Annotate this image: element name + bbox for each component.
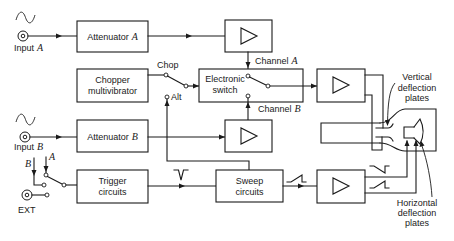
- channel-a-letter: A: [291, 55, 299, 66]
- arrow-right-icon: [298, 184, 304, 189]
- sweep-label-line-2: circuits: [235, 187, 264, 197]
- attenuator-a-channel-letter: A: [131, 31, 139, 42]
- arrow-down-icon: [32, 170, 37, 176]
- arrow-right-icon: [193, 84, 199, 89]
- arrow-down-icon: [246, 62, 251, 68]
- electronic-switch-pivot-icon: [266, 84, 270, 88]
- trigger-pulse-icon: [174, 170, 188, 180]
- channel-a-label: ChannelA: [255, 55, 299, 66]
- vertical-amplifier: [317, 69, 365, 102]
- attenuator-a-label-text: Attenuator: [87, 32, 129, 42]
- horizontal-plates-icon: [404, 127, 414, 138]
- crt-tube: [321, 109, 436, 151]
- trigger-source-pivot-icon: [62, 183, 66, 187]
- input-a-label-text: Input: [14, 43, 35, 53]
- vertical-deflection-plates-label: Vertical deflection plates: [398, 72, 437, 103]
- channel-b-contact-icon: [246, 94, 250, 98]
- input-a-label: InputA: [14, 42, 44, 53]
- attenuator-a-label: AttenuatorA: [87, 31, 139, 42]
- input-b-connector-icon: [20, 132, 30, 142]
- arrow-up-icon: [420, 141, 425, 147]
- alt-label: Alt: [171, 92, 182, 102]
- sine-wave-icon: [16, 114, 35, 125]
- upper-vertical-plate: [376, 124, 393, 128]
- horizontal-deflection-plates-label: Horizontal deflection plates: [397, 198, 438, 228]
- electronic-switch-label-line-2: switch: [212, 85, 237, 95]
- arrow-right-icon: [179, 184, 185, 189]
- input-b-label: InputB: [14, 141, 43, 152]
- horizontal-plates-label-line-3: plates: [405, 218, 430, 228]
- electronic-switch-label-line-1: Electronic: [205, 74, 245, 84]
- sawtooth-icon: [370, 181, 389, 188]
- crt-neck: [321, 123, 380, 143]
- vertical-plates-label-line-1: Vertical: [402, 72, 432, 82]
- ext-contact-icon: [45, 193, 49, 197]
- attenuator-b-channel-letter: B: [132, 131, 138, 142]
- horizontal-plates-label-line-1: Horizontal: [397, 198, 438, 208]
- input-b-label-text: Input: [14, 142, 35, 152]
- channel-b-label-text: Channel: [258, 104, 292, 114]
- arrow-up-icon: [405, 140, 410, 146]
- channel-a-amplifier: [225, 20, 272, 52]
- horizontal-plates-label-line-2: deflection: [398, 208, 437, 218]
- attenuator-b-label-text: Attenuator: [87, 132, 129, 142]
- horizontal-upper-output-wire: [365, 141, 407, 177]
- trigger-label-line-1: Trigger: [98, 176, 126, 186]
- input-b-channel-letter: B: [37, 141, 43, 152]
- chopper-label-line-2: multivibrator: [88, 86, 137, 96]
- arrow-down-icon: [385, 120, 390, 126]
- sweep-label-line-1: Sweep: [236, 176, 264, 186]
- horizontal-plates-leader: [422, 146, 432, 197]
- horizontal-lower-output-wire: [365, 141, 416, 193]
- input-b: InputB: [14, 114, 77, 152]
- trigger-circuits-block: Trigger circuits: [77, 170, 148, 203]
- trigger-source-b-contact-icon: [42, 183, 46, 187]
- ext-connector-icon: [22, 190, 32, 200]
- arrow-up-icon: [414, 140, 419, 146]
- trigger-label-line-2: circuits: [98, 187, 127, 197]
- channel-b-letter: B: [295, 103, 301, 114]
- dual-trace-oscilloscope-block-diagram: InputA AttenuatorA ChannelA Chopper mult…: [0, 0, 454, 241]
- chopper-label-line-1: Chopper: [95, 75, 130, 85]
- mode-switch-pivot-icon: [184, 84, 188, 88]
- vertical-plates-label-line-3: plates: [405, 93, 430, 103]
- trigger-source-a-label: A: [48, 151, 56, 162]
- arrow-right-icon: [311, 84, 317, 89]
- trigger-source-selector: B A EXT: [18, 151, 77, 215]
- arrow-right-icon: [219, 135, 225, 140]
- mode-switch-blade: [168, 76, 185, 85]
- arrow-down-icon: [44, 166, 49, 172]
- channel-b-label: ChannelB: [258, 103, 301, 114]
- horizontal-amplifier: [317, 170, 365, 203]
- vertical-upper-output-wire: [365, 75, 383, 128]
- arrow-right-icon: [56, 34, 62, 39]
- sawtooth-icon: [287, 175, 306, 182]
- ext-label: EXT: [18, 205, 36, 215]
- input-a: InputA: [14, 12, 77, 53]
- arrow-up-icon: [246, 102, 251, 108]
- arrow-right-icon: [186, 34, 192, 39]
- sine-wave-icon: [16, 12, 35, 23]
- arrow-right-icon: [56, 135, 62, 140]
- attenuator-b-block: AttenuatorB: [77, 120, 148, 152]
- chop-label: Chop: [157, 60, 179, 70]
- channel-b-amplifier: [225, 120, 272, 152]
- input-a-channel-letter: A: [36, 42, 44, 53]
- lower-vertical-plate: [376, 137, 393, 141]
- crt-screen-icon: [414, 119, 423, 144]
- attenuator-a-block: AttenuatorA: [77, 21, 148, 52]
- input-a-connector-icon: [18, 31, 28, 41]
- chopper-multivibrator-block: Chopper multivibrator: [77, 69, 148, 102]
- inverted-sawtooth-icon: [370, 166, 389, 173]
- arrow-up-icon: [165, 100, 170, 106]
- trigger-source-b-label: B: [25, 158, 31, 169]
- alt-contact-icon: [165, 95, 169, 99]
- vertical-plates-label-line-2: deflection: [398, 83, 437, 93]
- channel-a-label-text: Channel: [255, 56, 289, 66]
- sweep-circuits-block: Sweep circuits: [216, 170, 283, 202]
- trigger-source-switch-blade: [48, 177, 63, 185]
